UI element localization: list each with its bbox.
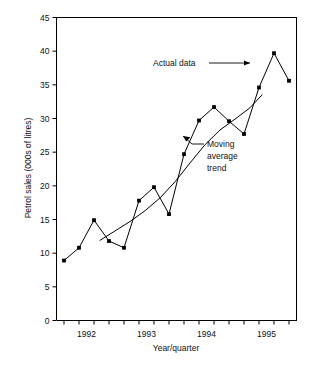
data-point-marker	[197, 119, 201, 123]
data-point-marker	[227, 119, 231, 123]
data-point-marker	[122, 246, 126, 250]
data-point-marker	[152, 185, 156, 189]
y-tick-label: 40	[40, 46, 50, 56]
data-point-marker	[107, 239, 111, 243]
data-point-marker	[167, 212, 171, 216]
data-point-marker	[242, 132, 246, 136]
petrol-sales-line-chart: 051015202530354045 1992199319941995 Actu…	[0, 0, 311, 373]
annotation-moving-average-line1: Moving	[207, 139, 235, 149]
data-point-marker	[137, 199, 141, 203]
x-tick-label: 1994	[197, 329, 216, 339]
y-tick-label: 20	[40, 181, 50, 191]
data-point-marker	[182, 152, 186, 156]
y-axis-title: Petrol sales (000s of litres)	[23, 118, 33, 219]
x-tick-label: 1995	[257, 329, 276, 339]
y-tick-label: 10	[40, 248, 50, 258]
x-tick-label: 1992	[77, 329, 96, 339]
chart-container: 051015202530354045 1992199319941995 Actu…	[0, 0, 311, 373]
annotation-actual-data-label: Actual data	[153, 58, 196, 68]
annotation-moving-average-line2: average	[207, 151, 238, 161]
data-point-marker	[257, 86, 261, 90]
data-point-marker	[212, 105, 216, 109]
y-tick-label: 30	[40, 114, 50, 124]
x-tick-label: 1993	[137, 329, 156, 339]
data-point-marker	[77, 246, 81, 250]
x-axis-title: Year/quarter	[153, 343, 200, 353]
annotation-moving-average-line3: trend	[207, 163, 227, 173]
y-tick-label: 25	[40, 147, 50, 157]
y-tick-label: 5	[45, 282, 50, 292]
y-tick-label: 15	[40, 215, 50, 225]
y-tick-label: 45	[40, 13, 50, 23]
y-tick-label: 35	[40, 80, 50, 90]
data-point-marker	[287, 79, 291, 83]
y-tick-label: 0	[45, 316, 50, 326]
data-point-marker	[62, 259, 66, 263]
data-point-marker	[272, 51, 276, 55]
data-point-marker	[92, 218, 96, 222]
